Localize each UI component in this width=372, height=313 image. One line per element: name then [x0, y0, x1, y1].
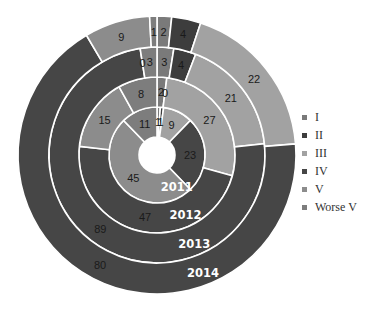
value-label-2012-v: 15 [98, 114, 110, 126]
legend-label: Worse V [315, 200, 357, 215]
value-label-2012-iv: 47 [139, 211, 151, 223]
legend-swatch [302, 133, 307, 138]
legend-swatch [302, 187, 307, 192]
value-label-2014-iii: 22 [248, 73, 260, 85]
legend-item-iii: III [302, 144, 357, 162]
ring-label-2012: 2012 [169, 208, 201, 222]
value-label-2011-iv: 23 [184, 149, 196, 161]
value-label-2013-iii: 21 [225, 92, 237, 104]
chart-legend: IIIIIIIVVWorse V [302, 108, 357, 216]
legend-item-iv: IV [302, 162, 357, 180]
legend-label: V [315, 182, 324, 197]
legend-swatch [302, 115, 307, 120]
value-label-2013-v: 0 [139, 57, 145, 69]
value-label-2012-worse-v: 8 [138, 88, 144, 100]
legend-label: II [315, 128, 323, 143]
value-label-2011-iii: 9 [168, 119, 174, 131]
ring-label-2014: 2014 [187, 266, 219, 280]
value-label-2011-worse-v: 11 [139, 118, 150, 130]
value-label-2013-iv: 89 [94, 223, 106, 235]
value-label-2014-v: 9 [118, 31, 124, 43]
chart-segments [18, 16, 296, 294]
value-label-2012-iii: 27 [203, 114, 215, 126]
value-label-2014-i: 2 [161, 26, 167, 38]
legend-label: I [315, 110, 319, 125]
legend-item-i: I [302, 108, 357, 126]
value-label-2013-i: 3 [161, 56, 167, 68]
value-label-2012-ii: 0 [162, 87, 168, 99]
ring-label-2013: 2013 [178, 237, 210, 251]
value-label-2013-ii: 4 [178, 59, 184, 71]
legend-label: III [315, 146, 327, 161]
ring-label-2011: 2011 [161, 180, 193, 194]
legend-label: IV [315, 164, 328, 179]
legend-swatch [302, 151, 307, 156]
value-label-2014-iv: 80 [94, 259, 106, 271]
value-label-2014-worse-v: 1 [151, 26, 157, 38]
value-label-2011-v: 45 [127, 172, 139, 184]
value-label-2014-ii: 4 [180, 28, 186, 40]
legend-item-v: V [302, 180, 357, 198]
legend-swatch [302, 205, 307, 210]
legend-swatch [302, 169, 307, 174]
value-label-2011-ii: 1 [157, 116, 163, 128]
value-label-2013-worse-v: 3 [147, 56, 153, 68]
legend-item-ii: II [302, 126, 357, 144]
legend-item-worse-v: Worse V [302, 198, 357, 216]
